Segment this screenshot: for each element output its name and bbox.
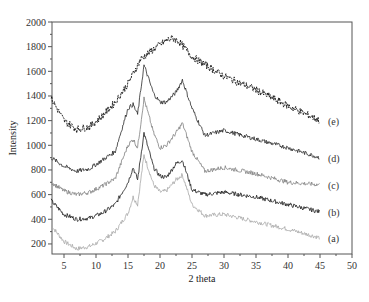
x-tick-label: 45 — [315, 260, 325, 271]
y-tick-label: 1600 — [26, 66, 46, 77]
curve-label-a: (a) — [328, 233, 339, 245]
series-line-e — [51, 35, 319, 133]
curve-label-b: (b) — [328, 207, 340, 219]
y-tick-label: 200 — [31, 238, 46, 249]
x-tick-label: 5 — [62, 260, 67, 271]
y-tick-label: 1400 — [26, 90, 46, 101]
x-tick-label: 30 — [219, 260, 229, 271]
y-tick-label: 1000 — [26, 140, 46, 151]
series-line-b — [51, 132, 319, 221]
curve-labels: (a)(b)(c)(d)(e) — [328, 116, 340, 245]
x-tick-label: 25 — [187, 260, 197, 271]
x-tick-label: 40 — [283, 260, 293, 271]
x-tick-label: 15 — [123, 260, 133, 271]
curve-label-c: (c) — [328, 180, 339, 192]
series-line-c — [51, 97, 319, 196]
y-tick-label: 600 — [31, 189, 46, 200]
y-tick-label: 1200 — [26, 115, 46, 126]
y-tick-label: 800 — [31, 164, 46, 175]
curve-label-e: (e) — [328, 116, 339, 128]
series-line-d — [51, 65, 319, 173]
xrd-chart: 200400600800100012001400160018002000 510… — [0, 0, 369, 302]
x-tick-label: 35 — [251, 260, 261, 271]
y-tick-label: 400 — [31, 214, 46, 225]
x-axis-title: 2 theta — [189, 273, 216, 284]
y-tick-label: 2000 — [26, 17, 46, 28]
curve-label-d: (d) — [328, 153, 340, 165]
y-tick-label: 1800 — [26, 41, 46, 52]
x-tick-label: 50 — [347, 260, 357, 271]
plot-frame — [52, 22, 352, 254]
x-tick-label: 10 — [91, 260, 101, 271]
x-tick-label: 20 — [155, 260, 165, 271]
x-axis: 5101520253035404550 — [62, 254, 358, 271]
y-axis-title: Intensity — [7, 121, 18, 156]
y-axis: 200400600800100012001400160018002000 — [26, 17, 52, 250]
series-layer — [51, 35, 319, 250]
